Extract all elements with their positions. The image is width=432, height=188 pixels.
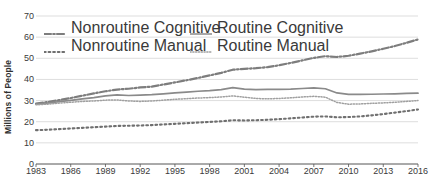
x-tick-1986: 1986 — [61, 166, 81, 176]
x-tick-2001: 2001 — [234, 166, 254, 176]
x-tick-1998: 1998 — [200, 166, 220, 176]
legend-line-sample-dotted-fine — [190, 42, 212, 50]
series-line-nonroutine-manual — [36, 109, 418, 130]
legend-line-sample-solid — [190, 24, 212, 32]
legend-line-sample-dotted-bold — [44, 42, 66, 50]
x-tick-1995: 1995 — [165, 166, 185, 176]
legend-label: Routine Manual — [217, 37, 329, 55]
x-tick-2013: 2013 — [373, 166, 393, 176]
x-tick-2004: 2004 — [269, 166, 289, 176]
x-tick-2010: 2010 — [339, 166, 359, 176]
legend-item-nonroutine-manual[interactable]: Nonroutine Manual — [44, 37, 206, 55]
legend-label: Routine Cognitive — [217, 19, 343, 37]
x-tick-1983: 1983 — [26, 166, 46, 176]
x-tick-2016: 2016 — [408, 166, 428, 176]
x-axis-tick-labels: 1983198619891992199519982001200420072010… — [36, 166, 418, 186]
legend-label: Nonroutine Manual — [71, 37, 206, 55]
employment-task-line-chart: Millions of People 010203040506070 19831… — [0, 0, 432, 188]
legend-item-routine-manual[interactable]: Routine Manual — [190, 37, 329, 55]
legend-line-sample-dash-dot — [44, 24, 66, 32]
x-tick-1989: 1989 — [95, 166, 115, 176]
legend-item-routine-cognitive[interactable]: Routine Cognitive — [190, 19, 343, 37]
x-tick-2007: 2007 — [304, 166, 324, 176]
x-tick-1992: 1992 — [130, 166, 150, 176]
